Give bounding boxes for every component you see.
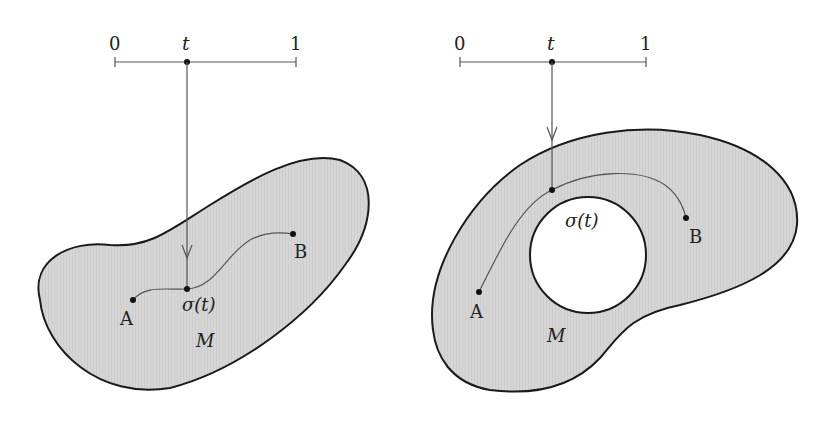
left-region-m xyxy=(38,158,368,390)
path-diagram: 0 t 1 A B σ(t) M 0 t 1 A B σ(t) M xyxy=(0,0,830,424)
left-point-a xyxy=(130,297,136,303)
right-panel: 0 t 1 A B σ(t) M xyxy=(432,32,797,392)
right-sigma-point xyxy=(549,187,555,193)
left-panel: 0 t 1 A B σ(t) M xyxy=(38,32,368,390)
left-sigma-point xyxy=(184,286,190,292)
right-label-t: t xyxy=(547,32,555,54)
left-label-1: 1 xyxy=(290,33,301,54)
right-region-m xyxy=(432,129,797,391)
right-label-sigma: σ(t) xyxy=(565,210,599,231)
right-label-0: 0 xyxy=(454,33,465,54)
left-label-a: A xyxy=(119,308,134,329)
left-label-t: t xyxy=(182,32,190,54)
right-label-b: B xyxy=(689,226,702,247)
left-label-0: 0 xyxy=(109,33,120,54)
left-point-b xyxy=(290,231,296,237)
left-label-b: B xyxy=(294,241,307,262)
right-point-a xyxy=(476,289,482,295)
right-label-m: M xyxy=(546,325,566,346)
right-label-a: A xyxy=(469,301,484,322)
right-label-1: 1 xyxy=(640,33,651,54)
left-label-m: M xyxy=(195,330,215,351)
right-point-b xyxy=(683,215,689,221)
left-label-sigma: σ(t) xyxy=(182,294,216,315)
